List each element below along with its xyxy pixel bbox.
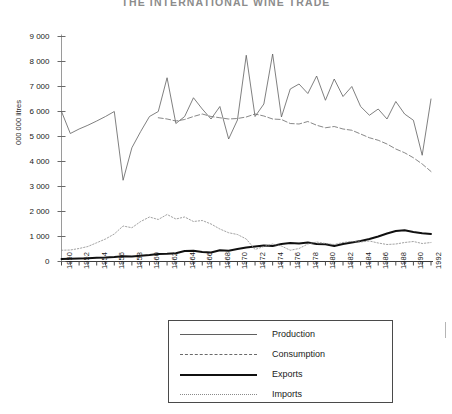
series-line [158,114,431,172]
legend-item-production: Production [169,324,392,344]
plot-area: 000 000 litres 01 0002 0003 0004 0005 00… [0,0,452,300]
x-tick-label: 1958 [135,251,144,268]
x-tick-label: 1976 [293,251,302,268]
x-tick-label: 1960 [152,251,161,268]
y-axis-title: 000 000 litres [14,83,23,163]
x-tick-label: 1990 [416,251,425,268]
legend-item-imports: Imports [169,384,392,404]
legend-item-consumption: Consumption [169,344,392,364]
y-tick-label: 5 000 [10,132,50,141]
x-tick-label: 1980 [328,251,337,268]
y-tick-label: 9 000 [10,32,50,41]
chart-page: THE INTERNATIONAL WINE TRADE 000 000 lit… [0,0,452,414]
x-tick-label: 1978 [311,251,320,268]
x-tick-label: 1982 [346,251,355,268]
x-tick-label: 1986 [381,251,390,268]
series-layer [62,54,432,259]
legend-label: Imports [272,389,302,399]
y-tick-label: 0 [10,257,50,266]
page-edge-mark [445,322,446,338]
legend-label: Production [272,329,315,339]
x-tick-label: 1988 [399,251,408,268]
line-sample-icon [180,368,257,380]
line-sample-icon [180,348,257,360]
x-tick-label: 1992 [434,251,443,268]
x-tick-label: 1970 [240,251,249,268]
x-tick-label: 1966 [205,251,214,268]
series-line [62,215,432,251]
y-tick-label: 3 000 [10,182,50,191]
x-tick-label: 1984 [364,251,373,268]
axes-layer [58,35,434,266]
y-tick-label: 4 000 [10,157,50,166]
legend-item-exports: Exports [169,364,392,384]
y-tick-label: 6 000 [10,107,50,116]
line-sample-icon [180,328,257,340]
x-tick-label: 1972 [258,251,267,268]
x-tick-label: 1952 [82,251,91,268]
x-tick-label: 1950 [65,251,74,268]
x-tick-label: 1962 [170,251,179,268]
y-tick-label: 1 000 [10,232,50,241]
x-tick-label: 1974 [276,251,285,268]
line-sample-icon [180,388,257,400]
x-tick-label: 1954 [100,251,109,268]
legend-label: Exports [272,369,303,379]
legend-label: Consumption [272,349,325,359]
x-tick-label: 1964 [188,251,197,268]
x-tick-label: 1956 [117,251,126,268]
x-tick-label: 1968 [223,251,232,268]
y-tick-label: 8 000 [10,57,50,66]
y-tick-label: 2 000 [10,207,50,216]
chart-legend: Production Consumption Exports Imports [168,320,393,403]
y-tick-label: 7 000 [10,82,50,91]
